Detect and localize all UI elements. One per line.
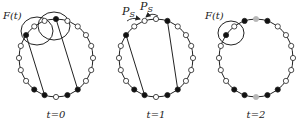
ring	[219, 19, 293, 97]
hollow-node	[89, 67, 94, 72]
hollow-node	[118, 67, 123, 72]
filled-node	[232, 87, 237, 92]
filled-node	[242, 18, 247, 23]
hollow-node	[189, 67, 194, 72]
filled-node	[132, 87, 137, 92]
hollow-node	[123, 78, 128, 83]
hollow-node	[116, 55, 121, 60]
hollow-node	[32, 24, 37, 29]
ring	[119, 19, 193, 97]
panel-1: PSPSt=1	[116, 0, 195, 120]
hollow-node	[16, 55, 21, 60]
hollow-node	[216, 55, 221, 60]
f-of-t-label: F(t)	[204, 10, 224, 21]
hollow-node	[232, 24, 237, 29]
filled-node	[65, 92, 70, 97]
hollow-node	[118, 43, 123, 48]
time-caption: t=1	[147, 109, 166, 120]
hollow-node	[275, 24, 280, 29]
hollow-node	[153, 16, 158, 21]
neighborhood-circle	[38, 12, 70, 40]
hollow-node	[223, 78, 228, 83]
filled-node	[142, 92, 147, 97]
filled-node	[32, 87, 37, 92]
hollow-node	[283, 32, 288, 37]
hollow-node	[153, 94, 158, 99]
hollow-node	[283, 78, 288, 83]
hollow-node	[289, 43, 294, 48]
hollow-node	[218, 67, 223, 72]
hollow-node	[189, 43, 194, 48]
time-caption: t=2	[247, 109, 266, 120]
filled-node	[265, 92, 270, 97]
chord-edge	[56, 19, 78, 90]
ring	[19, 19, 93, 97]
hollow-node	[23, 78, 28, 83]
hollow-node	[290, 55, 295, 60]
hollow-node	[42, 18, 47, 23]
filled-node	[223, 32, 228, 37]
hollow-node	[90, 55, 95, 60]
hollow-node	[175, 24, 180, 29]
shift-label: PS	[139, 0, 153, 14]
filled-node	[53, 16, 58, 21]
filled-node	[123, 32, 128, 37]
gray-node	[253, 94, 258, 99]
filled-node	[42, 92, 47, 97]
gray-node	[253, 16, 258, 21]
neighborhood-circle	[218, 21, 244, 45]
filled-node	[265, 18, 270, 23]
filled-node	[165, 92, 170, 97]
neighborhood-circle	[21, 17, 53, 45]
panel-0: F(t)t=0	[2, 10, 96, 120]
filled-node	[165, 18, 170, 23]
diagram-stage: F(t)t=0PSPSt=1F(t)t=2	[0, 0, 305, 125]
hollow-node	[289, 67, 294, 72]
filled-node	[275, 87, 280, 92]
hollow-node	[142, 18, 147, 23]
filled-node	[175, 87, 180, 92]
chord-edge	[126, 35, 145, 95]
hollow-node	[183, 78, 188, 83]
time-caption: t=0	[47, 109, 66, 120]
panel-2: F(t)t=2	[204, 10, 296, 120]
chord-edge	[167, 21, 177, 90]
hollow-node	[53, 94, 58, 99]
hollow-node	[190, 55, 195, 60]
hollow-node	[83, 78, 88, 83]
f-of-t-label: F(t)	[2, 10, 22, 21]
hollow-node	[18, 67, 23, 72]
hollow-node	[132, 24, 137, 29]
hollow-node	[83, 32, 88, 37]
hollow-node	[89, 43, 94, 48]
filled-node	[242, 92, 247, 97]
hollow-node	[75, 24, 80, 29]
hollow-node	[183, 32, 188, 37]
filled-node	[23, 32, 28, 37]
hollow-node	[65, 18, 70, 23]
hollow-node	[18, 43, 23, 48]
filled-node	[75, 87, 80, 92]
shift-label: PS	[121, 5, 135, 19]
hollow-node	[218, 43, 223, 48]
ring-evolution-diagram: F(t)t=0PSPSt=1F(t)t=2	[0, 0, 305, 125]
